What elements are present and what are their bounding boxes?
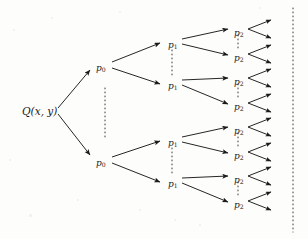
node-label-p2-4: p2 (234, 127, 244, 136)
edge-p2-to-leaf (248, 167, 271, 176)
node-subscript: 1 (174, 84, 178, 91)
node-subscript: 2 (240, 154, 244, 161)
node-subscript: 2 (240, 31, 244, 38)
node-subscript: 2 (240, 203, 244, 210)
edge-p2-to-leaf (248, 78, 271, 87)
node-base-symbol: p (234, 102, 240, 112)
tree-diagram-figure: Q(x, y)p0p0p1p1p1p1p2p2p2p2p2p2p2p2 (0, 0, 308, 239)
node-label-p1-2: p1 (168, 139, 178, 148)
edge-p1-to-p2 (182, 85, 228, 104)
edge-p2-to-leaf (248, 127, 271, 136)
edge-p1-to-p2 (182, 183, 228, 202)
edge-p1-to-p2 (182, 78, 228, 80)
node-label-p0-0: p0 (96, 64, 106, 73)
node-base-symbol: p (234, 151, 240, 161)
node-label-root: Q(x, y) (22, 106, 57, 117)
edge-root-to-p0 (58, 114, 90, 155)
node-label-p2-5: p2 (234, 152, 244, 161)
node-base-symbol: p (96, 158, 102, 168)
edge-p2-to-leaf (248, 20, 271, 29)
edge-p2-to-leaf (248, 176, 271, 185)
edge-p1-to-p2 (182, 142, 228, 153)
node-subscript: 1 (174, 141, 178, 148)
node-subscript: 2 (240, 178, 244, 185)
node-label-p2-2: p2 (234, 78, 244, 87)
edge-p2-to-leaf (248, 192, 271, 201)
edge-p1-to-p2 (182, 176, 228, 178)
edge-p2-to-leaf (248, 143, 271, 152)
node-label-p2-7: p2 (234, 201, 244, 210)
edge-p2-to-leaf (248, 29, 271, 38)
node-label-p0-1: p0 (96, 159, 106, 168)
edge-p0-to-p1 (112, 43, 160, 62)
node-label-p1-0: p1 (168, 41, 178, 50)
edge-root-to-p0 (58, 70, 90, 108)
scan-speck-7 (139, 209, 141, 211)
edge-p2-to-leaf (248, 103, 271, 112)
node-subscript: 1 (174, 182, 178, 189)
edge-p2-to-leaf (248, 94, 271, 103)
edge-p1-to-p2 (182, 44, 228, 55)
node-label-p2-3: p2 (234, 103, 244, 112)
edge-p2-to-leaf (248, 201, 271, 210)
node-base-symbol: p (234, 175, 240, 185)
tree-edges-canvas (0, 0, 308, 239)
node-label-p1-3: p1 (168, 180, 178, 189)
node-base-symbol: p (168, 138, 174, 148)
node-subscript: 2 (240, 105, 244, 112)
node-label-p2-1: p2 (234, 54, 244, 63)
node-subscript: 2 (240, 56, 244, 63)
edge-p2-to-leaf (248, 45, 271, 54)
node-base-symbol: p (234, 28, 240, 38)
edge-p2-to-leaf (248, 118, 271, 127)
edge-p1-to-p2 (182, 127, 228, 137)
node-base-symbol: p (168, 40, 174, 50)
node-base-symbol: p (234, 53, 240, 63)
node-base-symbol: p (234, 200, 240, 210)
node-base-symbol: p (168, 179, 174, 189)
edge-p0-to-p1 (112, 141, 160, 157)
node-subscript: 2 (240, 80, 244, 87)
node-label-p2-6: p2 (234, 176, 244, 185)
node-base-symbol: p (234, 77, 240, 87)
node-base-symbol: p (234, 126, 240, 136)
edge-p0-to-p1 (112, 163, 160, 182)
edge-p2-to-leaf (248, 152, 271, 161)
node-base-symbol: p (96, 63, 102, 73)
node-label-p1-1: p1 (168, 82, 178, 91)
edge-p0-to-p1 (112, 68, 160, 84)
edge-p2-to-leaf (248, 54, 271, 63)
node-label-p2-0: p2 (234, 29, 244, 38)
node-subscript: 0 (102, 66, 106, 73)
scan-speck-4 (29, 214, 32, 217)
node-subscript: 0 (102, 161, 106, 168)
node-base-symbol: p (168, 81, 174, 91)
node-subscript: 1 (174, 43, 178, 50)
node-subscript: 2 (240, 129, 244, 136)
edge-p2-to-leaf (248, 69, 271, 78)
edge-p1-to-p2 (182, 29, 228, 39)
